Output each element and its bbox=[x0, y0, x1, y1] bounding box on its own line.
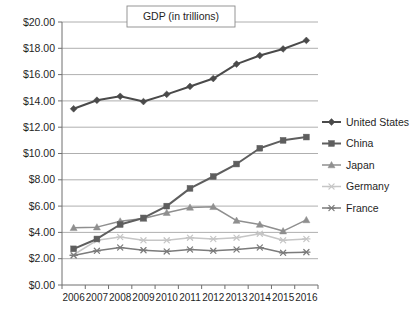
chart-legend: United StatesChinaJapanGermanyFrance bbox=[322, 116, 409, 214]
x-axis-tick-labels: 2006200720082009201020112012201320142015… bbox=[63, 292, 318, 303]
data-point-marker-square bbox=[257, 145, 263, 151]
data-point-marker-asterisk bbox=[186, 235, 193, 240]
data-point-marker-square bbox=[94, 236, 100, 242]
y-axis-tick-label: $10.00 bbox=[23, 147, 55, 159]
x-axis-tick-label: 2014 bbox=[249, 292, 272, 303]
data-point-marker-asterisk bbox=[93, 248, 100, 253]
data-point-marker-diamond bbox=[94, 97, 101, 104]
legend-item-united-states[interactable]: United States bbox=[322, 116, 409, 128]
data-point-marker-square bbox=[280, 137, 286, 143]
y-axis-tick-label: $20.00 bbox=[23, 16, 55, 28]
data-point-marker-diamond bbox=[187, 83, 194, 90]
data-point-marker-diamond bbox=[256, 52, 263, 59]
data-point-marker-asterisk bbox=[256, 231, 263, 236]
y-axis-tick-label: $6.00 bbox=[29, 200, 55, 212]
data-point-marker-square bbox=[210, 174, 216, 180]
data-point-marker-asterisk bbox=[328, 184, 335, 189]
data-point-marker-triangle bbox=[303, 216, 310, 222]
data-point-marker-square bbox=[71, 246, 77, 252]
data-point-marker-asterisk bbox=[117, 245, 124, 250]
chart-canvas: $0.00$2.00$4.00$6.00$8.00$10.00$12.00$14… bbox=[0, 0, 412, 317]
data-point-marker-asterisk bbox=[117, 234, 124, 239]
data-point-marker-square bbox=[164, 203, 170, 209]
chart-title-label: GDP (in trillions) bbox=[143, 10, 219, 22]
data-point-marker-diamond bbox=[140, 98, 147, 105]
data-point-marker-square bbox=[141, 215, 147, 221]
y-axis-tick-label: $8.00 bbox=[29, 173, 55, 185]
y-axis-tick-label: $14.00 bbox=[23, 95, 55, 107]
data-point-marker-asterisk bbox=[210, 248, 217, 253]
data-point-marker-square bbox=[187, 185, 193, 191]
x-axis-tick-label: 2012 bbox=[202, 292, 225, 303]
legend-item-china[interactable]: China bbox=[322, 137, 374, 149]
x-axis-tick-label: 2010 bbox=[156, 292, 179, 303]
legend-item-germany[interactable]: Germany bbox=[322, 180, 390, 192]
data-point-marker-asterisk bbox=[328, 205, 335, 210]
data-point-marker-square bbox=[117, 222, 123, 228]
data-point-marker-asterisk bbox=[233, 247, 240, 252]
legend-label: United States bbox=[346, 116, 409, 128]
data-point-marker-diamond bbox=[117, 93, 124, 100]
data-point-marker-asterisk bbox=[210, 236, 217, 241]
data-point-marker-asterisk bbox=[303, 236, 310, 241]
data-point-marker-asterisk bbox=[140, 248, 147, 253]
y-axis-tick-label: $12.00 bbox=[23, 121, 55, 133]
legend-label: Germany bbox=[346, 180, 390, 192]
y-axis-tick-label: $0.00 bbox=[29, 279, 55, 291]
legend-label: France bbox=[346, 202, 379, 214]
series-japan bbox=[70, 203, 310, 234]
data-point-marker-asterisk bbox=[279, 238, 286, 243]
data-point-marker-asterisk bbox=[256, 245, 263, 250]
x-axis-tick-label: 2008 bbox=[109, 292, 132, 303]
data-point-marker-square bbox=[329, 141, 335, 147]
legend-label: China bbox=[346, 137, 374, 149]
legend-label: Japan bbox=[346, 159, 375, 171]
data-point-marker-square bbox=[234, 161, 240, 167]
series-france bbox=[70, 245, 310, 258]
data-point-marker-asterisk bbox=[163, 249, 170, 254]
x-axis-tick-label: 2006 bbox=[63, 292, 86, 303]
x-axis-tick-label: 2015 bbox=[272, 292, 295, 303]
gridlines bbox=[62, 22, 318, 259]
y-axis-tick-label: $16.00 bbox=[23, 68, 55, 80]
data-point-marker-square bbox=[303, 134, 309, 140]
data-point-marker-asterisk bbox=[186, 247, 193, 252]
data-point-marker-asterisk bbox=[70, 253, 77, 258]
data-point-marker-diamond bbox=[303, 37, 310, 44]
gdp-line-chart: $0.00$2.00$4.00$6.00$8.00$10.00$12.00$14… bbox=[0, 0, 412, 317]
data-point-marker-asterisk bbox=[279, 250, 286, 255]
x-axis-tick-label: 2011 bbox=[179, 292, 201, 303]
data-point-marker-asterisk bbox=[233, 235, 240, 240]
x-axis-tick-label: 2009 bbox=[132, 292, 155, 303]
data-point-marker-diamond bbox=[163, 91, 170, 98]
legend-item-japan[interactable]: Japan bbox=[322, 159, 375, 171]
y-axis-tick-label: $18.00 bbox=[23, 42, 55, 54]
x-axis-tick-label: 2016 bbox=[295, 292, 318, 303]
data-point-marker-diamond bbox=[280, 46, 287, 53]
series-china bbox=[71, 134, 310, 252]
data-point-marker-asterisk bbox=[140, 238, 147, 243]
chart-title: GDP (in trillions) bbox=[127, 6, 235, 27]
legend-item-france[interactable]: France bbox=[322, 202, 379, 214]
y-axis-tick-label: $2.00 bbox=[29, 252, 55, 264]
data-point-marker-asterisk bbox=[303, 250, 310, 255]
y-axis-tick-labels: $0.00$2.00$4.00$6.00$8.00$10.00$12.00$14… bbox=[23, 16, 55, 291]
data-point-marker-diamond bbox=[328, 119, 335, 126]
data-point-marker-diamond bbox=[70, 105, 77, 112]
y-axis-tick-label: $4.00 bbox=[29, 226, 55, 238]
series-germany bbox=[70, 231, 310, 257]
data-point-marker-asterisk bbox=[163, 238, 170, 243]
x-axis-tick-label: 2007 bbox=[86, 292, 109, 303]
data-series bbox=[70, 37, 310, 258]
x-axis-tick-label: 2013 bbox=[225, 292, 248, 303]
